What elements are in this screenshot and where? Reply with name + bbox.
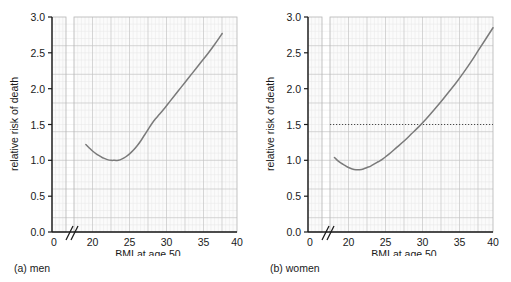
x-tick-label: 20 (87, 236, 99, 248)
x-tick-label: 0 (51, 236, 57, 248)
x-axis-title-women: BMI at age 50 (371, 248, 437, 256)
x-tick-label: 0 (307, 236, 313, 248)
x-tick-label: 40 (487, 236, 499, 248)
y-tick-label: 3.0 (286, 11, 301, 23)
y-axis-title-women: relative risk of death (264, 77, 276, 171)
y-tick-label: 0.5 (286, 190, 301, 202)
y-tick-label: 2.0 (286, 83, 301, 95)
x-tick-label: 30 (161, 236, 173, 248)
y-axis-title-men: relative risk of death (8, 77, 20, 171)
y-tick-label: 0.0 (30, 226, 45, 238)
x-tick-labels-men: 0 20 25 30 35 40 (51, 236, 243, 248)
panel-caption-women: (b) women (270, 262, 320, 274)
chart-panel-men: 3.0 2.5 2.0 1.5 1.0 0.5 0.0 0 20 25 30 3… (0, 0, 255, 282)
x-tick-label: 30 (417, 236, 429, 248)
chart-svg-women: 3.0 2.5 2.0 1.5 1.0 0.5 0.0 0 20 25 30 3… (256, 0, 511, 256)
x-tick-label: 25 (124, 236, 136, 248)
x-tick-label: 25 (380, 236, 392, 248)
y-tick-label: 2.5 (30, 47, 45, 59)
chart-panel-women: 3.0 2.5 2.0 1.5 1.0 0.5 0.0 0 20 25 30 3… (256, 0, 511, 282)
y-tick-label: 1.5 (30, 119, 45, 131)
y-tick-labels-women: 3.0 2.5 2.0 1.5 1.0 0.5 0.0 (286, 11, 301, 238)
x-tick-label: 40 (231, 236, 243, 248)
y-tick-label: 2.5 (286, 47, 301, 59)
x-tick-labels-women: 0 20 25 30 35 40 (307, 236, 499, 248)
x-axis-title-men: BMI at age 50 (115, 248, 181, 256)
y-tick-label: 0.0 (286, 226, 301, 238)
y-tick-label: 1.0 (30, 154, 45, 166)
y-tick-labels-men: 3.0 2.5 2.0 1.5 1.0 0.5 0.0 (30, 11, 45, 238)
x-tick-label: 35 (454, 236, 466, 248)
y-tick-label: 1.5 (286, 119, 301, 131)
y-tick-label: 2.0 (30, 83, 45, 95)
y-tick-label: 3.0 (30, 11, 45, 23)
y-tick-label: 1.0 (286, 154, 301, 166)
x-tick-label: 35 (198, 236, 210, 248)
x-tick-label: 20 (343, 236, 355, 248)
chart-svg-men: 3.0 2.5 2.0 1.5 1.0 0.5 0.0 0 20 25 30 3… (0, 0, 255, 256)
figure-container: 3.0 2.5 2.0 1.5 1.0 0.5 0.0 0 20 25 30 3… (0, 0, 511, 282)
panel-caption-men: (a) men (14, 262, 50, 274)
y-tick-label: 0.5 (30, 190, 45, 202)
